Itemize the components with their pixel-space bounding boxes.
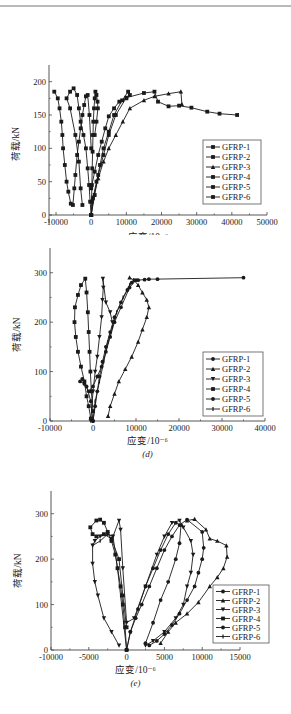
legend-label: GFRP-1 [222,142,250,152]
series-gfrp-4 [73,277,95,421]
gfrp-1-data-point [185,598,189,602]
gfrp-6-data-point [86,93,90,97]
legend-label: GFRP-5 [222,182,250,192]
x-tick-label: 40000 [254,423,275,433]
x-tick-label: 30000 [186,217,207,227]
gfrp-4-data-point [177,104,181,108]
gfrp-2-data-point [112,392,116,396]
legend-label: GFRP-6 [222,404,250,414]
y-tick-label: 150 [33,110,46,120]
gfrp-5-data-point [144,585,148,589]
gfrp-1-data-point [242,276,246,280]
chart-panel-c: -100000100002000030000400005000005010015… [0,30,291,235]
gfrp-3-data-point [191,553,195,557]
gfrp-2-data-point [145,315,149,319]
gfrp-3-data-point [117,644,121,648]
gfrp-3-data-point [189,539,193,543]
series-gfrp-2 [106,275,151,418]
gfrp-5-data-point [159,598,163,602]
y-tick-label: 200 [33,77,46,87]
legend-gfrp-1-data-point [211,357,215,361]
legend-label: GFRP-5 [222,394,250,404]
gfrp-4-data-point [124,96,128,100]
gfrp-3-data-point [102,616,106,620]
gfrp-2-data-point [145,298,149,302]
x-tick-label: -10000 [39,652,63,662]
gfrp-5-data-point [81,203,85,207]
gfrp-4-data-point [190,106,194,110]
gfrp-4-data-point [96,173,100,177]
gfrp-6-data-point [79,126,83,130]
gfrp-2-data-point [136,340,140,344]
gfrp-3-data-point [114,133,118,137]
x-tick-label: 40000 [221,217,242,227]
y-axis-label: 荷载/kN [12,553,23,587]
x-tick-label: 10000 [192,652,213,662]
figure-caption: (d) [142,449,153,459]
gfrp-4-data-point [87,404,91,408]
gfrp-6-data-point [89,146,93,150]
gfrp-4-data-point [89,370,93,374]
x-tick-label: 50000 [256,217,277,227]
gfrp-3-data-point [117,519,121,523]
gfrp-1-data-point [200,557,204,561]
gfrp-4-data-point [85,291,89,295]
gfrp-5-data-point [128,630,132,634]
gfrp-1-data-point [155,639,159,643]
x-tick-label: 5000 [156,652,173,662]
y-tick-label: 50 [38,177,47,187]
gfrp-6-data-point [82,103,86,107]
y-tick-label: 100 [34,367,47,377]
gfrp-5-data-point [73,133,77,137]
gfrp-6-data-point [81,113,85,117]
x-axis-label: 应变/10⁻⁶ [115,664,155,675]
gfrp-3-data-point [96,594,100,598]
gfrp-1-data-point [95,120,99,124]
gfrp-4-data-point [73,305,77,309]
gfrp-1-data-point [170,535,174,539]
gfrp-4-data-point [94,535,98,539]
gfrp-5-data-point [72,86,76,90]
gfrp-1-data-point [155,566,159,570]
gfrp-5-data-point [134,278,138,282]
gfrp-6-data-point [71,203,75,207]
legend-gfrp-1-data-point [211,145,215,149]
y-axis-label: 荷载/kN [11,317,22,351]
gfrp-2-data-point [123,367,127,371]
gfrp-1-data-point [94,90,98,94]
legend-label: GFRP-6 [232,632,260,642]
y-tick-label: 100 [35,600,48,610]
gfrp-3-data-point [93,370,97,374]
gfrp-3-data-point [118,528,122,532]
gfrp-2-data-point [112,106,116,110]
gfrp-3-data-point [179,89,183,93]
x-tick-label: 0 [124,652,128,662]
gfrp-4-data-point [73,320,77,324]
gfrp-6-data-point [88,113,92,117]
gfrp-2-data-point [89,186,93,190]
x-tick-label: -10000 [38,423,62,433]
gfrp-3-data-point [90,562,94,566]
gfrp-4-data-point [102,521,106,525]
gfrp-5-data-point [68,90,72,94]
gfrp-2-data-point [117,379,121,383]
y-tick-label: 100 [33,143,46,153]
gfrp-3-data-point [121,566,125,570]
gfrp-4-data-point [218,112,222,116]
gfrp-1-data-point [156,277,160,281]
gfrp-2-data-point [106,414,110,418]
gfrp-4-data-point [86,310,90,314]
chart-panel-d: -100000100002000030000400000100200300荷载/… [0,240,291,475]
legend-label: GFRP-3 [222,374,250,384]
gfrp-5-data-point [174,557,178,561]
gfrp-6-data-point [73,173,77,177]
gfrp-5-data-point [82,133,86,137]
gfrp-3-data-point [99,315,103,319]
gfrp-1-data-point [91,150,95,154]
gfrp-4-data-point [76,350,80,354]
gfrp-1-data-point [90,166,94,170]
gfrp-5-data-point [78,380,82,384]
gfrp-3-data-point [108,310,112,314]
legend: GFRP-1GFRP-2GFRP-3GFRP-4GFRP-5GFRP-6 [203,352,263,416]
gfrp-1-data-point [200,530,204,534]
